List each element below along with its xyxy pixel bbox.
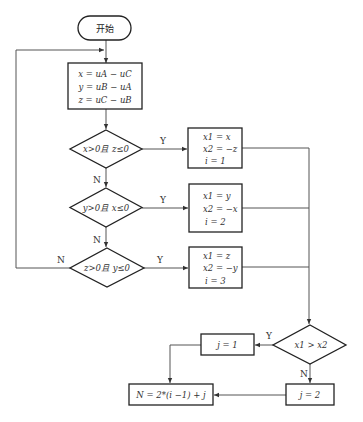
decision-2-label: y>0且 x≤0 (82, 203, 130, 213)
decision-1-label: x>0且 z≤0 (83, 144, 130, 154)
compare-decision: x1 > x2 Y N (265, 325, 346, 379)
assign-2-line-3: i = 2 (205, 217, 226, 227)
assign-1-line-2: x2 = −z (203, 144, 238, 154)
decision-2-no-label: N (93, 235, 101, 245)
assign-3-line-1: x1 = z (203, 251, 231, 261)
decision-3-no-label: N (57, 255, 65, 265)
assign-1-line-1: x1 = x (203, 132, 231, 142)
compare-label: x1 > x2 (295, 340, 328, 350)
assign-2-line-2: x2 = −x (203, 204, 238, 214)
init-line-z: z = uC − uB (77, 95, 131, 105)
assign-box-3: x1 = z x2 = −y i = 3 (189, 247, 242, 288)
decision-1: x>0且 z≤0 Y N (70, 130, 167, 185)
j1-box: j = 1 (201, 334, 254, 355)
decision-1-no-label: N (93, 175, 101, 185)
decision-2-yes-label: Y (159, 195, 167, 205)
decision-1-yes-label: Y (159, 136, 167, 146)
assign-box-1: x1 = x x2 = −z i = 1 (188, 128, 242, 168)
assign-1-line-3: i = 1 (205, 156, 226, 166)
decision-3-label: z>0且 y≤0 (83, 263, 131, 273)
flowchart: 开始 x = uA − uC y = uB − uA z = uC − uB x… (0, 0, 363, 422)
connectors (16, 40, 310, 395)
decision-3-yes-label: Y (156, 255, 164, 265)
compare-no-label: N (300, 369, 308, 379)
start-terminal: 开始 (78, 16, 131, 40)
j2-label: j = 2 (298, 390, 321, 400)
assign-3-line-2: x2 = −y (203, 263, 238, 273)
assign-3-line-3: i = 3 (205, 276, 226, 286)
init-box: x = uA − uC y = uB − uA z = uC − uB (68, 63, 142, 109)
j2-box: j = 2 (286, 384, 334, 405)
j1-label: j = 1 (215, 340, 238, 350)
start-label: 开始 (96, 23, 114, 34)
init-line-y: y = uB − uA (77, 82, 131, 92)
result-label: N = 2*(i −1) + j (135, 390, 206, 400)
init-line-x: x = uA − uC (78, 69, 132, 79)
decision-2: y>0且 x≤0 Y N (70, 188, 167, 245)
assign-box-2: x1 = y x2 = −x i = 2 (189, 184, 242, 232)
result-box: N = 2*(i −1) + j (129, 384, 213, 405)
compare-yes-label: Y (265, 331, 273, 341)
assign-2-line-1: x1 = y (203, 191, 231, 201)
